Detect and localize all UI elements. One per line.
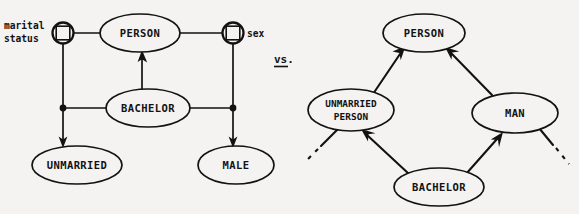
marital-status-label-line1: marital — [4, 20, 45, 31]
node-unmarried[interactable]: UNMARRIED — [32, 146, 122, 184]
left-diagram: marital status sex PERSON BACHELOR UNMAR… — [4, 14, 274, 184]
node-label: PERSON — [404, 27, 444, 39]
figure-container: marital status sex PERSON BACHELOR UNMAR… — [0, 0, 579, 214]
node-male[interactable]: MALE — [198, 146, 274, 184]
attribute-node-sex[interactable] — [223, 23, 244, 44]
attribute-node-marital-status[interactable] — [53, 23, 74, 44]
vs-label: vs. — [274, 53, 294, 66]
edge-unmarried-person-tail-dashed — [304, 149, 318, 163]
vs-separator: vs. — [274, 53, 294, 67]
edge-unmarried-person-tail-solid — [321, 129, 338, 146]
node-label: MAN — [505, 107, 525, 119]
node-label-line2: PERSON — [334, 111, 369, 122]
node-label-line1: UNMARRIED — [325, 98, 377, 109]
edge-man-to-person — [451, 53, 492, 95]
junction-dot-left — [60, 105, 67, 112]
edge-bachelor-to-unmarried-person — [367, 135, 409, 174]
node-person-left[interactable]: PERSON — [100, 14, 180, 52]
square-icon — [226, 26, 240, 40]
edge-unmarried-person-to-person — [373, 54, 400, 94]
node-man[interactable]: MAN — [472, 93, 558, 133]
edge-man-tail-dashed — [556, 148, 569, 164]
node-label: PERSON — [120, 27, 160, 39]
sex-label: sex — [247, 28, 265, 39]
diagram-canvas: marital status sex PERSON BACHELOR UNMAR… — [0, 0, 579, 214]
right-diagram: PERSON UNMARRIED PERSON MAN BACHELOR — [304, 14, 569, 206]
node-unmarried-person[interactable]: UNMARRIED PERSON — [308, 89, 394, 131]
node-label: BACHELOR — [412, 181, 466, 193]
junction-dot-right — [230, 105, 237, 112]
edge-man-tail-solid — [539, 128, 553, 145]
node-label: UNMARRIED — [47, 159, 108, 171]
node-label: MALE — [223, 159, 250, 171]
edge-bachelor-to-man — [466, 139, 497, 174]
marital-status-label-line2: status — [4, 33, 39, 44]
node-bachelor-left[interactable]: BACHELOR — [106, 89, 190, 127]
node-bachelor-right[interactable]: BACHELOR — [394, 168, 484, 206]
node-label: BACHELOR — [121, 102, 175, 114]
node-person-right[interactable]: PERSON — [383, 14, 465, 52]
square-icon — [56, 26, 70, 40]
